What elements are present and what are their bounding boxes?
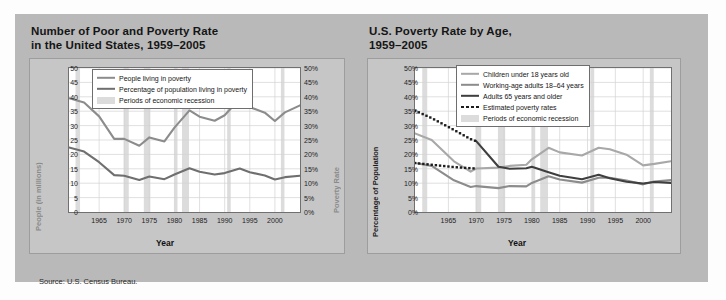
legend-swatch-line-icon: [461, 92, 479, 101]
figure-number-of-poor: Number of Poor and Poverty Rate in the U…: [29, 24, 359, 272]
legend-swatch-band-icon: [97, 96, 115, 105]
axis-tick-label: 1985: [552, 217, 568, 224]
legend-item: People living in poverty: [97, 73, 247, 83]
axis-tick-label: 1980: [167, 217, 183, 224]
axis-tick-label: 1990: [580, 217, 596, 224]
legend-swatch-band-icon: [461, 114, 479, 123]
source-note: Source: U.S. Census Bureau.: [39, 277, 137, 286]
legend-item: Children under 18 years old: [461, 69, 584, 79]
legend-item: Periods of economic recession: [97, 95, 247, 105]
axis-tick-label: 2000: [635, 217, 651, 224]
axis-tick-label: 1995: [608, 217, 624, 224]
axis-tick-label: 1980: [524, 217, 540, 224]
legend-item: Percentage of population living in pover…: [97, 84, 247, 94]
legend-swatch-dotted-icon: [461, 103, 479, 112]
legend-swatch-line-icon: [97, 74, 115, 83]
legend-label: Percentage of population living in pover…: [119, 85, 247, 94]
page-root: Number of Poor and Poverty Rate in the U…: [0, 0, 726, 300]
axis-tick-label: 1975: [142, 217, 158, 224]
legend-item: Adults 65 years and older: [461, 91, 584, 101]
legend-item: Working-age adults 18–64 years: [461, 80, 584, 90]
right-plot-box: Percentage of Population 0%5%10%15%20%25…: [367, 58, 681, 254]
left-chart-title-line2: in the United States, 1959–2005: [31, 38, 359, 52]
legend-label: Estimated poverty rates: [483, 103, 557, 112]
left-chart-title: Number of Poor and Poverty Rate in the U…: [31, 24, 359, 52]
axis-tick-label: 1965: [441, 217, 457, 224]
axis-tick-label: 1965: [91, 217, 107, 224]
axis-tick-label: 1995: [242, 217, 258, 224]
axis-tick-label: 2000: [267, 217, 283, 224]
axis-tick-label: 1970: [468, 217, 484, 224]
axis-tick-label: 1975: [496, 217, 512, 224]
right-chart-title: U.S. Poverty Rate by Age, 1959–2005: [369, 24, 695, 52]
axis-tick-label: 1970: [116, 217, 132, 224]
right-chart-legend: Children under 18 years oldWorking-age a…: [456, 65, 590, 127]
legend-label: Children under 18 years old: [483, 70, 569, 79]
right-x-axis-title: Year: [388, 238, 646, 248]
left-chart-legend: People living in povertyPercentage of po…: [92, 69, 253, 109]
axis-tick-label: 1985: [192, 217, 208, 224]
legend-label: People living in poverty: [119, 74, 191, 83]
legend-label: Periods of economic recession: [483, 114, 578, 123]
right-chart-title-line2: 1959–2005: [369, 38, 695, 52]
legend-swatch-line-icon: [461, 81, 479, 90]
legend-item: Estimated poverty rates: [461, 102, 584, 112]
right-chart-title-line1: U.S. Poverty Rate by Age,: [369, 24, 695, 38]
legend-item: Periods of economic recession: [461, 113, 584, 123]
left-plot-box: People (in millions) Poverty Rate 051015…: [29, 58, 345, 254]
legend-label: Periods of economic recession: [119, 96, 214, 105]
left-chart-title-line1: Number of Poor and Poverty Rate: [31, 24, 359, 38]
legend-label: Working-age adults 18–64 years: [483, 81, 584, 90]
legend-swatch-line-icon: [461, 70, 479, 79]
figure-poverty-by-age: U.S. Poverty Rate by Age, 1959–2005 Perc…: [367, 24, 695, 272]
figure-panel: Number of Poor and Poverty Rate in the U…: [15, 14, 708, 282]
left-x-axis-title: Year: [40, 238, 290, 248]
legend-label: Adults 65 years and older: [483, 92, 562, 101]
axis-tick-label: 1990: [217, 217, 233, 224]
legend-swatch-line-icon: [97, 85, 115, 94]
